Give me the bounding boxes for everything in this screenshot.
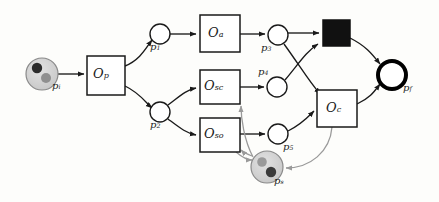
arc-Tsync-to-pf (350, 38, 380, 64)
transition-Oso[interactable] (200, 118, 240, 152)
token-ps-1 (257, 157, 267, 167)
arc-p4-to-Tsync (285, 44, 318, 80)
arc-Oc-to-ps (286, 127, 332, 168)
transition-Oa[interactable] (200, 15, 240, 52)
arc-p5-to-Oc (288, 111, 314, 131)
place-pf[interactable] (378, 61, 406, 89)
place-p2[interactable] (150, 102, 170, 122)
arc-ps-to-Osc (241, 106, 253, 157)
arc-Op-to-p2 (125, 86, 152, 108)
diagram-canvas: Op Oa Osc Oso Oc pi p1 p2 p3 p4 p5 ps pf (0, 0, 439, 202)
token-ps-2 (266, 167, 276, 177)
arc-p2-to-Osc (168, 88, 196, 105)
transition-sync-filled[interactable] (323, 20, 350, 46)
arc-p2-to-Oso (168, 119, 196, 135)
token-pi-1 (32, 63, 42, 73)
arc-Oc-to-pf (357, 84, 380, 104)
place-ps[interactable] (251, 151, 283, 183)
token-pi-2 (41, 73, 51, 83)
arc-p3-to-Oc (284, 44, 320, 94)
place-pi[interactable] (26, 58, 58, 90)
arc-Oso-to-ps (236, 152, 252, 160)
node-layer (26, 15, 406, 183)
petri-net-graphic (0, 0, 439, 202)
transition-Oc[interactable] (317, 90, 357, 127)
place-p5[interactable] (268, 124, 288, 144)
place-p4[interactable] (267, 77, 287, 97)
arc-Op-to-p1 (125, 40, 152, 66)
place-p3[interactable] (268, 25, 288, 45)
transition-Osc[interactable] (200, 70, 240, 104)
transition-Op[interactable] (87, 56, 125, 95)
place-p1[interactable] (150, 24, 170, 44)
